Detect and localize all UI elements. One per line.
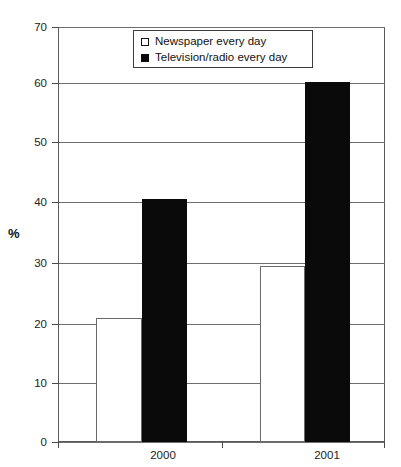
ytick-mark-10 [52, 383, 59, 384]
ytick-mark-70 [52, 27, 59, 28]
xtick-mark-mid [222, 442, 223, 448]
ytick-mark-60 [52, 83, 59, 84]
y-axis-title: % [8, 227, 20, 240]
ytick-label-50: 50 [7, 137, 47, 149]
ytick-label-30: 30 [7, 258, 47, 270]
legend-item-newspaper: Newspaper every day [141, 34, 312, 50]
legend-label-tv-radio: Television/radio every day [155, 52, 287, 64]
bar-chart: 70 60 50 40 30 20 10 0 % 2000 2001 Newsp… [0, 0, 401, 467]
ytick-label-70: 70 [7, 22, 47, 34]
legend-item-tv-radio: Television/radio every day [141, 50, 312, 66]
open-square-icon [141, 38, 149, 46]
bar-tv-radio-2001 [305, 82, 350, 442]
xtick-label-2000: 2000 [128, 450, 198, 462]
xtick-mark-right [384, 442, 385, 448]
ytick-mark-20 [52, 324, 59, 325]
xtick-mark-left [58, 442, 59, 448]
ytick-mark-30 [52, 263, 59, 264]
ytick-label-10: 10 [7, 378, 47, 390]
ytick-label-60: 60 [7, 78, 47, 90]
ytick-label-40: 40 [7, 197, 47, 209]
legend-label-newspaper: Newspaper every day [155, 36, 266, 48]
gridline-70 [58, 27, 385, 28]
bar-tv-radio-2000 [142, 199, 187, 442]
chart-legend: Newspaper every day Television/radio eve… [133, 30, 313, 68]
ytick-label-20: 20 [7, 319, 47, 331]
ytick-label-0: 0 [7, 437, 47, 449]
filled-square-icon [141, 54, 149, 62]
bar-newspaper-2001 [260, 266, 305, 442]
bar-newspaper-2000 [96, 318, 142, 442]
xtick-label-2001: 2001 [292, 450, 362, 462]
ytick-mark-50 [52, 142, 59, 143]
ytick-mark-40 [52, 202, 59, 203]
